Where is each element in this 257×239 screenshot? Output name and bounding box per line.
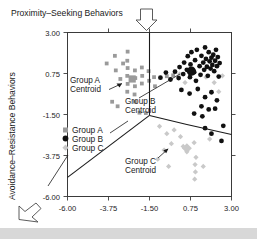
data-point — [126, 66, 130, 70]
legend-marker-circle — [63, 136, 69, 142]
data-point — [193, 58, 198, 63]
data-point — [140, 74, 144, 78]
data-point — [113, 54, 117, 58]
centroid-marker-group-a — [129, 75, 136, 82]
data-point — [140, 66, 144, 70]
x-tick-label: -1.50 — [141, 204, 158, 213]
data-point — [133, 69, 137, 73]
data-point — [133, 93, 137, 97]
annotation-line2: Centroid — [125, 166, 156, 175]
chart-background — [0, 0, 257, 239]
legend-marker-square — [63, 128, 68, 133]
centroid-marker-group-b — [187, 67, 196, 76]
data-point — [179, 88, 184, 93]
data-point — [206, 50, 211, 55]
data-point — [105, 62, 109, 66]
data-point — [211, 52, 216, 57]
data-point — [181, 72, 186, 77]
data-point — [152, 75, 156, 79]
y-tick-label: -3.75 — [43, 152, 60, 161]
data-point — [203, 45, 208, 50]
data-point — [210, 63, 215, 68]
data-point — [221, 123, 226, 128]
x-tick-label: 3.00 — [224, 204, 239, 213]
data-point — [125, 90, 129, 94]
data-point — [199, 53, 204, 58]
data-point — [206, 107, 211, 112]
data-point — [158, 75, 163, 80]
data-point — [215, 98, 220, 103]
data-point — [197, 64, 202, 69]
data-point — [194, 78, 199, 83]
data-point — [189, 50, 194, 55]
data-point — [209, 90, 214, 95]
data-point — [215, 55, 220, 60]
y-tick-label: -1.50 — [43, 111, 60, 120]
data-point — [200, 114, 205, 119]
y-tick-label: -6.00 — [43, 193, 60, 202]
data-point — [194, 47, 199, 52]
data-point — [188, 62, 193, 67]
data-point — [199, 104, 204, 109]
y-tick-label: 0.75 — [45, 70, 60, 79]
data-point — [173, 69, 178, 74]
data-point — [182, 60, 187, 65]
data-point — [133, 84, 137, 88]
data-point — [126, 50, 130, 54]
data-point — [217, 61, 222, 66]
data-point — [121, 62, 125, 66]
data-point — [185, 54, 190, 59]
data-point — [203, 95, 208, 100]
data-point — [209, 131, 214, 136]
data-point — [216, 74, 221, 79]
scatter-plot-figure: Proximity–Seeking Behaviors Avoidance–Re… — [0, 0, 257, 239]
annotation-line2: Centroid — [125, 106, 156, 115]
x-tick-label: -3.75 — [100, 204, 117, 213]
chart-canvas: Proximity–Seeking Behaviors Avoidance–Re… — [0, 0, 257, 239]
data-point — [110, 100, 114, 104]
annotation-line1: Group B — [125, 97, 156, 106]
x-tick-label: -6.00 — [59, 204, 76, 213]
data-point — [213, 106, 218, 111]
data-point — [187, 91, 192, 96]
data-point — [205, 73, 210, 78]
data-point — [219, 139, 224, 144]
annotation-line1: Group C — [125, 157, 156, 166]
data-point — [164, 70, 169, 75]
data-point — [212, 69, 217, 74]
data-point — [214, 47, 219, 52]
data-point — [198, 72, 203, 77]
data-point — [177, 65, 182, 70]
legend-label: Group C — [72, 143, 104, 153]
data-point — [116, 104, 120, 108]
annotation-line1: Group A — [70, 76, 101, 85]
annotation-line2: Centroid — [70, 85, 101, 94]
data-point — [192, 111, 197, 116]
data-point — [176, 76, 181, 81]
y-axis-title: Avoidance–Resistance Behaviors — [7, 72, 17, 200]
data-point — [125, 59, 129, 63]
x-tick-label: 0.75 — [183, 204, 198, 213]
data-point — [118, 77, 122, 81]
y-tick-label: 3.00 — [45, 29, 60, 38]
data-point — [195, 87, 200, 92]
data-point — [114, 69, 118, 73]
data-point — [140, 82, 144, 86]
page-edge-strip — [0, 228, 257, 239]
chart-title: Proximity–Seeking Behaviors — [11, 8, 123, 18]
